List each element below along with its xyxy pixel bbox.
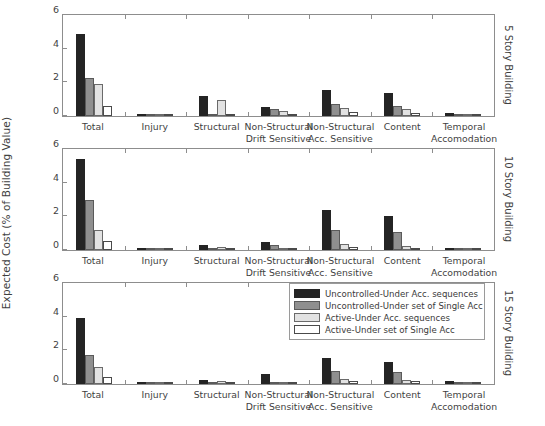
x-tick-mark <box>371 112 372 116</box>
x-tick-mark <box>432 149 433 153</box>
bar-group <box>197 15 237 116</box>
bar <box>472 382 481 384</box>
y-tick-mark <box>63 48 67 49</box>
legend-item: Uncontrolled-Under set of Single Acc <box>294 300 480 311</box>
bar-group <box>74 15 114 116</box>
x-axis-category-label: Content <box>384 255 421 267</box>
axes-10-story: 0246 <box>62 148 495 251</box>
bar <box>322 210 331 250</box>
x-axis-category-label: Injury <box>142 121 168 133</box>
x-tick-mark <box>432 112 433 116</box>
bar <box>199 245 208 250</box>
bar <box>103 377 112 384</box>
bar <box>463 114 472 116</box>
bar <box>146 114 155 116</box>
bar <box>217 100 226 116</box>
x-tick-mark <box>125 380 126 384</box>
y-tick-mark <box>63 282 67 283</box>
x-axis-category-label: Temporal Accomodation <box>431 255 497 278</box>
bar <box>402 380 411 384</box>
x-tick-mark <box>186 15 187 19</box>
y-tick-mark <box>63 115 67 116</box>
bar <box>76 34 85 116</box>
bar <box>85 200 94 250</box>
x-axis-category-label: Structural <box>194 389 240 401</box>
x-tick-mark <box>125 112 126 116</box>
y-tick-label: 4 <box>53 37 59 48</box>
y-tick-label: 4 <box>53 305 59 316</box>
bar <box>199 380 208 384</box>
x-tick-mark <box>371 246 372 250</box>
bar <box>85 355 94 384</box>
y-tick-mark <box>63 215 67 216</box>
x-axis-category-label: Total <box>82 121 104 133</box>
x-tick-mark <box>125 283 126 287</box>
bar <box>146 382 155 384</box>
x-tick-mark <box>309 15 310 19</box>
bar <box>164 382 173 384</box>
bar <box>155 382 164 384</box>
bar <box>164 248 173 250</box>
x-tick-mark <box>371 15 372 19</box>
bar-group-bars <box>443 149 483 250</box>
legend-label: Active-Under set of Single Acc <box>325 325 455 335</box>
bar <box>349 247 358 250</box>
legend-swatch <box>294 301 320 310</box>
bar <box>402 246 411 250</box>
legend-item: Uncontrolled-Under Acc. sequences <box>294 288 480 299</box>
x-tick-mark <box>309 380 310 384</box>
bar <box>411 113 420 116</box>
bar <box>454 248 463 250</box>
bar <box>137 248 146 250</box>
x-tick-mark <box>432 246 433 250</box>
y-tick-label: 4 <box>53 171 59 182</box>
row-title-10-story: 10 Story Building <box>503 139 514 259</box>
x-axis-category-label: Total <box>82 389 104 401</box>
bar-group <box>74 149 114 250</box>
x-tick-mark <box>432 380 433 384</box>
legend-label: Uncontrolled-Under set of Single Acc <box>325 301 483 311</box>
bar-group-bars <box>259 149 299 250</box>
x-axis-category-label: Structural <box>194 255 240 267</box>
x-tick-mark <box>371 380 372 384</box>
bar <box>261 374 270 384</box>
bar <box>322 90 331 116</box>
bar <box>288 114 297 116</box>
bar-group <box>259 15 299 116</box>
x-axis-category-label: Content <box>384 389 421 401</box>
bar-group <box>135 149 175 250</box>
panel-10-story: 0246 <box>62 148 495 251</box>
bar-group-bars <box>135 283 175 384</box>
bar-group-bars <box>74 15 114 116</box>
bar-group-bars <box>74 283 114 384</box>
bar <box>199 96 208 116</box>
x-tick-mark <box>309 246 310 250</box>
bar <box>402 109 411 116</box>
row-title-5-story: 5 Story Building <box>503 5 514 125</box>
bar <box>445 381 454 384</box>
x-tick-mark <box>432 15 433 19</box>
bar <box>208 248 217 250</box>
bar-group <box>197 283 237 384</box>
x-tick-mark <box>125 246 126 250</box>
x-tick-mark <box>248 112 249 116</box>
y-tick-mark <box>63 316 67 317</box>
bar <box>349 381 358 384</box>
bar <box>411 248 420 250</box>
x-tick-mark <box>125 149 126 153</box>
y-tick-label: 0 <box>53 105 59 116</box>
bar <box>340 108 349 116</box>
bar <box>393 372 402 384</box>
row-title-15-story: 15 Story Building <box>503 273 514 393</box>
bar <box>279 111 288 116</box>
x-tick-mark <box>248 283 249 287</box>
bar <box>445 248 454 250</box>
y-tick-label: 2 <box>53 205 59 216</box>
bar <box>411 381 420 384</box>
x-tick-mark <box>248 149 249 153</box>
bar-group-bars <box>320 149 360 250</box>
bar <box>270 109 279 116</box>
y-tick-mark <box>63 14 67 15</box>
bar <box>208 382 217 384</box>
bar-group-bars <box>135 15 175 116</box>
